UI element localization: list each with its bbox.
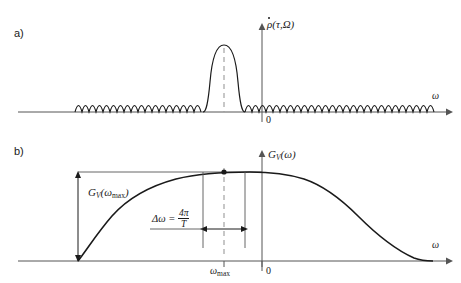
- panel-b-y-axis-label-g: G: [268, 148, 276, 160]
- panel-b-width-label-numerator: 4π: [178, 209, 190, 219]
- figure-canvas: [0, 0, 461, 283]
- panel-b-omega-max-tick-label: ωmax: [210, 265, 230, 276]
- panel-a-y-axis-label-rho: ρ: [267, 18, 272, 30]
- panel-a-letter: a): [14, 27, 24, 39]
- panel-a-x-axis-label: ω: [432, 90, 439, 101]
- panel-b-y-axis-label-subscript: V: [276, 153, 281, 162]
- panel-a-left-sidelobes: [75, 106, 201, 113]
- panel-b-letter: b): [14, 145, 24, 157]
- panel-b-amplitude-label-g: G: [88, 186, 96, 198]
- panel-a-group: [18, 23, 453, 122]
- panel-b-group: [18, 48, 453, 271]
- panel-a-right-sidelobes: [245, 106, 434, 113]
- panel-b-origin-label: 0: [266, 265, 271, 276]
- panel-b-omega-max-tick-label-subscript: max: [217, 269, 230, 278]
- panel-b-envelope-curve: [78, 172, 433, 261]
- panel-b-amplitude-label-omega: ω: [104, 186, 112, 198]
- panel-b-omega-max-tick-label-omega: ω: [210, 265, 217, 276]
- panel-b-amplitude-label-subscript: V: [96, 191, 101, 200]
- panel-b-width-label-lhs: Δω =: [152, 213, 175, 224]
- panel-b-width-arrow-head-right: [241, 226, 248, 232]
- panel-b-x-axis-arrowhead: [446, 258, 453, 265]
- panel-b-amplitude-label-omega-subscript: max: [112, 191, 125, 200]
- panel-b-peak-marker-dot: [221, 169, 226, 174]
- figure-root: a) b) ρ(τ,Ω) ω 0 GV(ω) ω 0 ωmax GV(ωmax)…: [0, 0, 461, 283]
- panel-b-amplitude-label-paren-close: ): [125, 186, 129, 198]
- panel-b-width-label: Δω = 4π T: [152, 210, 189, 230]
- panel-b-width-label-fraction: 4π T: [178, 209, 190, 229]
- panel-a-y-axis-label-args: (τ,Ω): [272, 18, 294, 30]
- panel-a-y-axis-label: ρ(τ,Ω): [267, 18, 294, 30]
- panel-a-y-axis-arrowhead: [259, 23, 266, 30]
- panel-a-x-axis-arrowhead: [446, 109, 453, 116]
- panel-b-amplitude-label: GV(ωmax): [88, 186, 129, 198]
- panel-a-origin-label: 0: [266, 114, 271, 125]
- panel-b-y-axis-label: GV(ω): [268, 148, 296, 160]
- panel-b-y-axis-arrowhead: [259, 150, 266, 157]
- panel-b-width-label-denominator: T: [178, 219, 190, 229]
- panel-b-x-axis-label: ω: [432, 239, 439, 250]
- panel-b-y-axis-label-arg: (ω): [281, 148, 296, 160]
